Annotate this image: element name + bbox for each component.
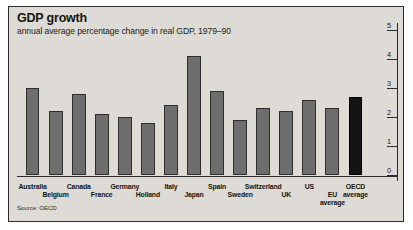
- y-axis-tick: [387, 59, 398, 60]
- category-label: Spain: [193, 183, 241, 191]
- chart-subtitle: annual average percentage change in real…: [17, 26, 231, 36]
- bar-spain: [210, 91, 224, 175]
- y-axis-tick: [387, 175, 398, 176]
- bar-oecd-average: [349, 97, 363, 175]
- bar-switzerland: [256, 108, 270, 175]
- category-label: Germany: [101, 183, 149, 191]
- category-label: Holland: [124, 191, 172, 199]
- y-axis-tick-label: 0: [387, 166, 391, 175]
- bar-germany: [118, 117, 132, 175]
- y-axis-tick: [387, 117, 398, 118]
- bar-uk: [279, 111, 293, 175]
- bar-holland: [141, 123, 155, 175]
- y-axis-tick-label: 3: [387, 79, 391, 88]
- category-labels: AustraliaBelgiumCanadaFranceGermanyHolla…: [9, 177, 405, 223]
- y-axis-line: [397, 23, 398, 181]
- y-axis-tick-label: 5: [387, 21, 391, 30]
- category-label: France: [78, 191, 126, 199]
- plot-area: [17, 43, 369, 176]
- category-label: OECD average: [331, 183, 379, 198]
- y-axis-tick: [387, 88, 398, 89]
- category-label: Italy: [147, 183, 195, 191]
- category-label: Belgium: [32, 191, 80, 199]
- bar-canada: [72, 94, 86, 175]
- y-axis-tick-label: 2: [387, 108, 391, 117]
- chart-panel: GDP growth annual average percentage cha…: [8, 6, 404, 222]
- bar-italy: [164, 105, 178, 175]
- bar-france: [95, 114, 109, 175]
- y-axis-tick-label: 1: [387, 137, 391, 146]
- source-note: Source: OECD: [17, 204, 57, 211]
- bar-us: [302, 100, 316, 175]
- category-label: Sweden: [216, 191, 264, 199]
- category-label: Switzerland: [239, 183, 287, 191]
- bar-australia: [26, 88, 40, 175]
- y-axis-tick: [387, 146, 398, 147]
- bar-eu-average: [325, 108, 339, 175]
- bar-japan: [187, 56, 201, 175]
- category-label: Japan: [170, 191, 218, 199]
- bar-sweden: [233, 120, 247, 175]
- page-title: GDP growth: [17, 11, 87, 25]
- y-axis-tick: [387, 30, 398, 31]
- category-label: UK: [262, 191, 310, 199]
- category-label: US: [285, 183, 333, 191]
- bar-belgium: [49, 111, 63, 175]
- category-label: Canada: [55, 183, 103, 191]
- y-axis-tick-label: 4: [387, 50, 391, 59]
- category-label: Australia: [9, 183, 57, 191]
